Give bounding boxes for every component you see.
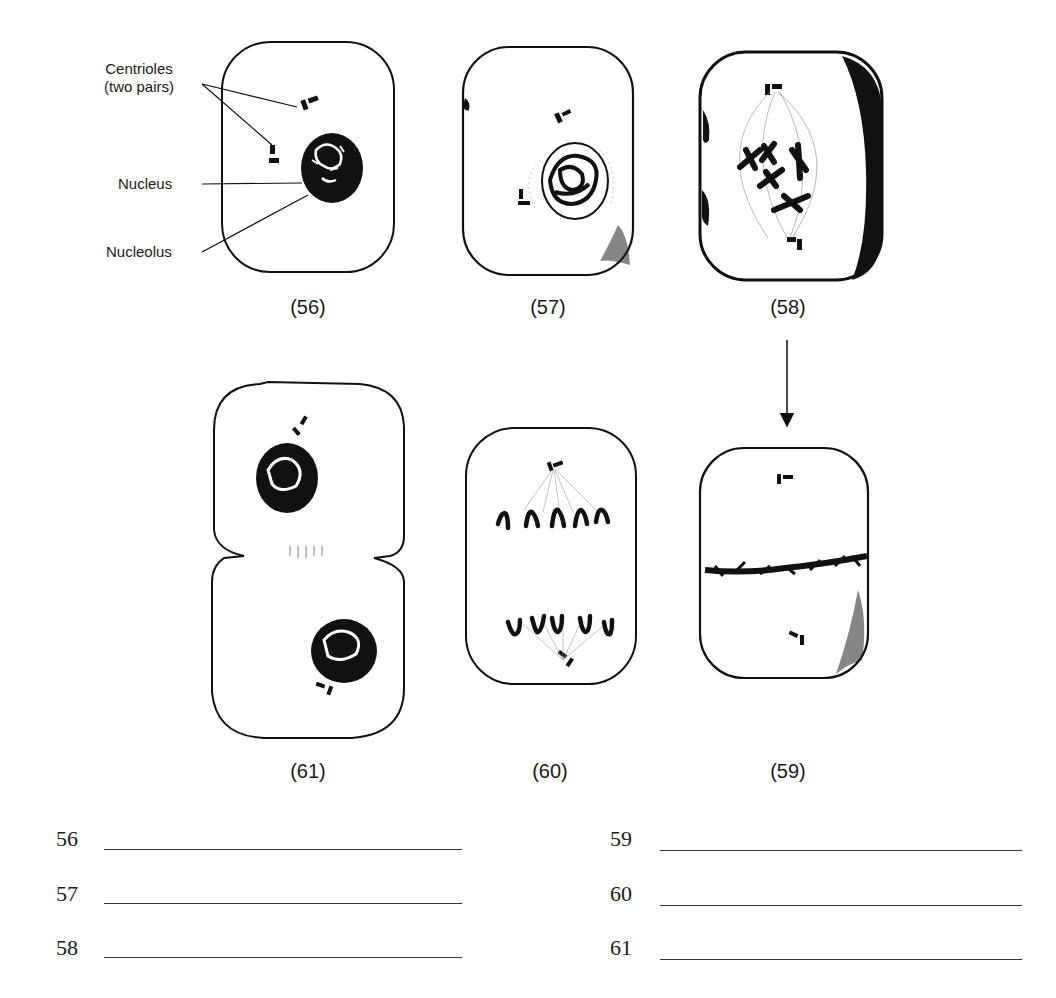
- centrioles-label-line1: Centrioles: [104, 60, 174, 78]
- answer-row-60: 60: [610, 881, 632, 907]
- centriole-icon: [789, 630, 804, 645]
- centriole-icon: [269, 145, 279, 163]
- nucleus-icon: [311, 619, 377, 683]
- answer-row-61: 61: [610, 935, 632, 961]
- answer-field-59[interactable]: [660, 850, 1022, 851]
- cell-57: [463, 47, 633, 275]
- nucleolus-label: Nucleolus: [106, 243, 172, 261]
- centriole-icon: [292, 416, 308, 437]
- centriole-icon: [518, 189, 530, 205]
- cell-56: [202, 42, 394, 272]
- answer-number: 59: [610, 826, 632, 851]
- cell-61: [212, 382, 404, 738]
- answer-field-57[interactable]: [104, 903, 462, 904]
- cell-60: [466, 428, 636, 684]
- chromosome-icon: [498, 510, 612, 635]
- caption-57: (57): [508, 296, 588, 319]
- answer-row-56: 56: [56, 826, 78, 852]
- caption-58: (58): [748, 296, 828, 319]
- cell-59: [700, 448, 868, 678]
- answer-row-57: 57: [56, 881, 78, 907]
- centriole-icon: [554, 109, 571, 123]
- nucleus-label: Nucleus: [118, 175, 172, 193]
- centriole-icon: [547, 460, 564, 471]
- answer-number: 56: [56, 826, 78, 851]
- caption-56: (56): [268, 296, 348, 319]
- centriole-icon: [787, 237, 802, 250]
- cell-58: [700, 52, 882, 280]
- answer-number: 61: [610, 935, 632, 960]
- centrioles-label: Centrioles (two pairs): [104, 60, 174, 96]
- centriole-icon: [300, 95, 318, 110]
- nucleus-icon: [256, 443, 318, 513]
- chromosome-icon: [740, 144, 808, 210]
- centriole-icon: [777, 474, 793, 484]
- answer-row-58: 58: [56, 935, 78, 961]
- answer-field-56[interactable]: [104, 849, 462, 850]
- answer-number: 60: [610, 881, 632, 906]
- caption-59: (59): [748, 760, 828, 783]
- answer-field-60[interactable]: [660, 905, 1022, 906]
- answer-row-59: 59: [610, 826, 632, 852]
- answer-number: 57: [56, 881, 78, 906]
- answer-field-58[interactable]: [104, 957, 462, 958]
- answer-number: 58: [56, 935, 78, 960]
- answer-field-61[interactable]: [660, 959, 1022, 960]
- caption-60: (60): [510, 760, 590, 783]
- centriole-icon: [316, 682, 334, 696]
- caption-61: (61): [268, 760, 348, 783]
- centrioles-label-line2: (two pairs): [104, 78, 174, 96]
